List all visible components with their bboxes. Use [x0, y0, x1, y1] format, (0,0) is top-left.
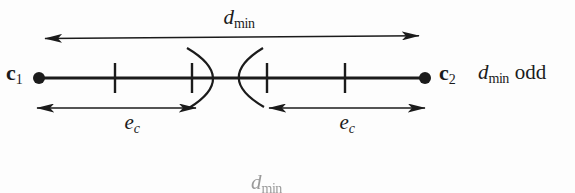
dmin-odd-note: dminodd — [478, 62, 546, 86]
ec-left-label: ec — [124, 112, 139, 136]
dmin-dimension-arrow — [45, 36, 419, 39]
dmin-label-base: d — [224, 5, 235, 29]
ec-right-base: e — [339, 110, 348, 134]
codeword-c2-label: c2 — [439, 62, 455, 87]
c1-label-base: c — [6, 60, 16, 85]
note-odd-word: odd — [515, 60, 547, 84]
ec-left-subscript: c — [134, 121, 140, 136]
diagram-canvas — [0, 0, 575, 193]
ec-right-subscript: c — [349, 121, 355, 136]
note-dmin-base: d — [478, 60, 489, 84]
dmin-label-subscript: min — [234, 16, 254, 31]
c2-label-subscript: 2 — [449, 72, 456, 87]
ec-right-label: ec — [339, 112, 354, 136]
next-figure-dmin-label: dmin — [251, 172, 282, 193]
minimum-distance-decoding-spheres-figure: dmin c1 c2 dminodd ec ec dmin — [0, 0, 575, 193]
dmin-label: dmin — [224, 7, 255, 31]
next-figure-dmin-subscript: min — [262, 181, 282, 193]
codeword-c1-dot — [33, 72, 45, 84]
codeword-c1-label: c1 — [6, 62, 22, 87]
next-figure-dmin-base: d — [251, 170, 262, 193]
codeword-c2-dot — [419, 72, 431, 84]
c1-label-subscript: 1 — [16, 72, 23, 87]
note-dmin-subscript: min — [489, 71, 509, 86]
c2-label-base: c — [439, 60, 449, 85]
ec-left-base: e — [124, 110, 133, 134]
